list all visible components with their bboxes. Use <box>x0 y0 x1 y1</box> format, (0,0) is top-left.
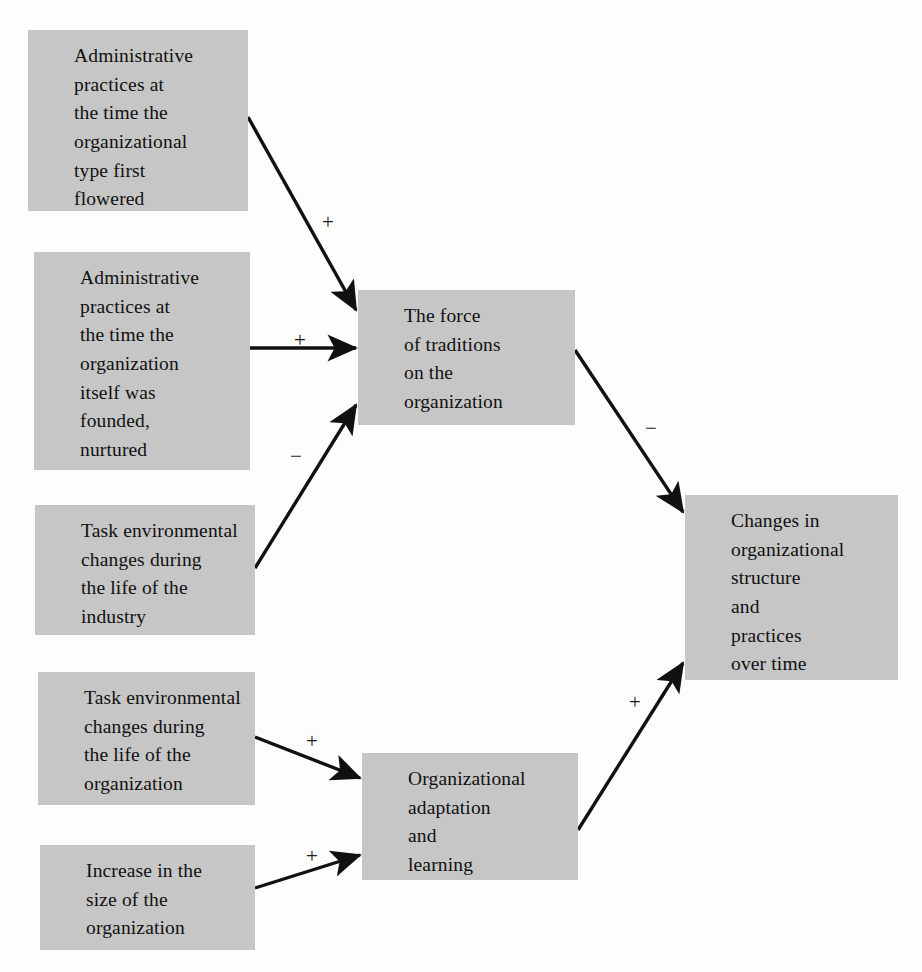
arrow-edge-adaptation-to-changes <box>578 663 683 830</box>
node-label: Administrative practices at the time the… <box>28 30 248 214</box>
arrow-edge-type-to-traditions <box>248 117 356 310</box>
node-admin-practices-org[interactable]: Administrative practices at the time the… <box>34 252 250 470</box>
node-admin-practices-type[interactable]: Administrative practices at the time the… <box>28 30 248 211</box>
node-organizational-adaptation[interactable]: Organizational adaptation and learning <box>362 753 578 880</box>
edge-sign-edge-taskenv-org-to-adaptation: + <box>306 731 318 752</box>
node-label: Task environmental changes during the li… <box>38 672 255 799</box>
node-label: Changes in organizational structure and … <box>685 495 898 679</box>
node-label: Organizational adaptation and learning <box>362 753 578 880</box>
diagram-canvas: Administrative practices at the time the… <box>0 0 922 972</box>
edge-sign-edge-founded-to-traditions: + <box>294 330 306 351</box>
edge-sign-edge-type-to-traditions: + <box>322 212 334 233</box>
node-task-env-industry[interactable]: Task environmental changes during the li… <box>35 505 255 635</box>
edge-sign-edge-traditions-to-changes: − <box>645 418 657 439</box>
node-force-of-traditions[interactable]: The force of traditions on the organizat… <box>358 290 575 425</box>
node-task-env-organization[interactable]: Task environmental changes during the li… <box>38 672 255 805</box>
node-changes-structure-practices[interactable]: Changes in organizational structure and … <box>685 495 898 680</box>
node-label: Task environmental changes during the li… <box>35 505 255 632</box>
edge-sign-edge-adaptation-to-changes: + <box>629 692 641 713</box>
node-label: The force of traditions on the organizat… <box>358 290 575 417</box>
edge-sign-edge-industry-to-traditions: − <box>290 446 302 467</box>
node-increase-size[interactable]: Increase in the size of the organization <box>40 845 255 950</box>
arrow-edge-industry-to-traditions <box>255 405 356 568</box>
edge-sign-edge-size-to-adaptation: + <box>306 846 318 867</box>
node-label: Increase in the size of the organization <box>40 845 255 943</box>
node-label: Administrative practices at the time the… <box>34 252 250 465</box>
arrow-edge-traditions-to-changes <box>575 350 683 512</box>
